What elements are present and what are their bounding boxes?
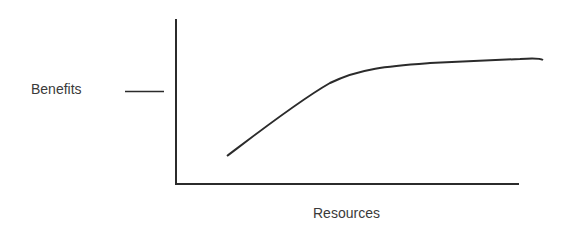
benefit-curve <box>227 58 543 156</box>
y-axis-label: Benefits <box>31 81 82 97</box>
x-axis-label: Resources <box>313 205 380 221</box>
chart-canvas <box>0 0 565 231</box>
